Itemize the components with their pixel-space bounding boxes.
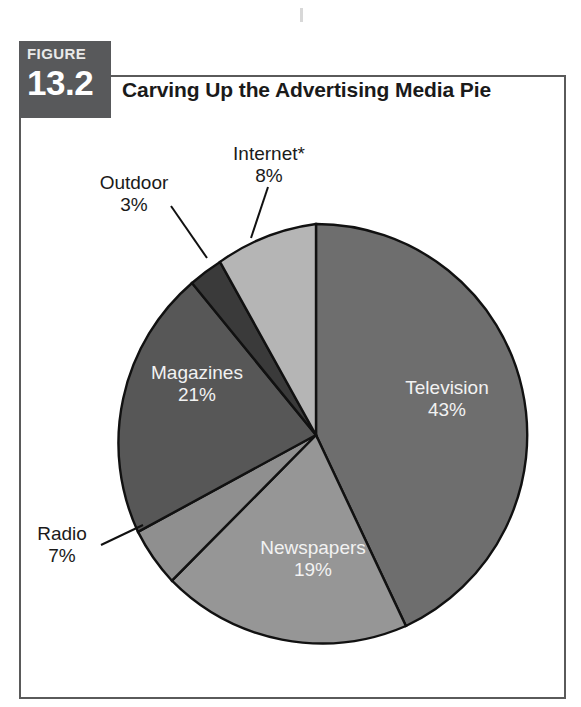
pie-label-magazines: Magazines 21% [127, 362, 267, 406]
pie-label-radio: Radio 7% [12, 523, 112, 567]
scan-artifact-tick [300, 8, 303, 22]
pie-label-magazines-value: 21% [127, 384, 267, 406]
pie-label-television: Television 43% [377, 377, 517, 421]
pie-label-magazines-name: Magazines [127, 362, 267, 384]
pie-label-radio-value: 7% [12, 545, 112, 567]
pie-label-television-value: 43% [377, 399, 517, 421]
pie-label-internet-value: 8% [189, 165, 349, 187]
pie-label-television-name: Television [377, 377, 517, 399]
pie-label-internet: Internet* 8% [189, 143, 349, 187]
pie-chart: Internet* 8% Outdoor 3% Radio 7% Televis… [19, 75, 566, 699]
pie-label-outdoor-name: Outdoor [69, 172, 199, 194]
pie-label-radio-name: Radio [12, 523, 112, 545]
figure-badge-word: FIGURE [27, 46, 111, 62]
pie-label-outdoor-value: 3% [69, 194, 199, 216]
pie-label-newspapers: Newspapers 19% [233, 537, 393, 581]
leader-line-internet [251, 187, 268, 238]
pie-label-newspapers-name: Newspapers [233, 537, 393, 559]
pie-label-newspapers-value: 19% [233, 559, 393, 581]
pie-label-outdoor: Outdoor 3% [69, 172, 199, 216]
pie-label-internet-name: Internet* [189, 143, 349, 165]
